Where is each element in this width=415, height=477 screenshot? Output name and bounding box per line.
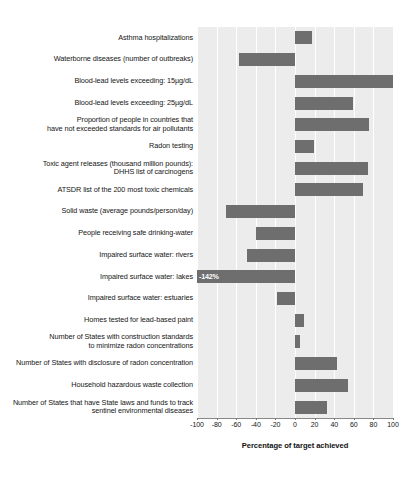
category-label: Impaired surface water: lakes: [0, 273, 193, 282]
bar: [295, 118, 369, 131]
x-tick: [334, 418, 335, 420]
bar: [295, 31, 312, 44]
category-label-line: Blood-lead levels exceeding: 25µg/dL: [0, 99, 193, 108]
x-axis-title: Percentage of target achieved: [197, 441, 393, 450]
category-label: Impaired surface water: estuaries: [0, 294, 193, 303]
category-label-line: People receiving safe drinking-water: [0, 229, 193, 238]
bar: [226, 205, 295, 218]
category-label: Solid waste (average pounds/person/day): [0, 207, 193, 216]
x-tick-label: 100: [380, 421, 406, 428]
category-label-line: Impaired surface water: rivers: [0, 251, 193, 260]
bar-row: [197, 136, 393, 158]
bar-row: [197, 223, 393, 245]
bar-row: [197, 353, 393, 375]
bar-row: [197, 70, 393, 92]
bar-row: [197, 114, 393, 136]
category-label: Number of States with disclosure of rado…: [0, 359, 193, 368]
bar: [295, 335, 300, 348]
x-tick: [275, 418, 276, 420]
category-label: Proportion of people in countries thatha…: [0, 116, 193, 133]
category-label: Number of States that have State laws an…: [0, 399, 193, 416]
bar: [239, 53, 295, 66]
category-label: ATSDR list of the 200 most toxic chemica…: [0, 186, 193, 195]
category-label-line: Homes tested for lead-based paint: [0, 316, 193, 325]
category-label: Impaired surface water: rivers: [0, 251, 193, 260]
category-label: People receiving safe drinking-water: [0, 229, 193, 238]
x-tick: [315, 418, 316, 420]
bar-row: [197, 288, 393, 310]
category-label-line: Asthma hospitalizations: [0, 34, 193, 43]
category-label-line: sentinel environmental diseases: [0, 407, 193, 416]
bar: [295, 140, 314, 153]
plot-area: -142%: [197, 27, 393, 418]
category-label-line: have not exceeded standards for air poll…: [0, 125, 193, 134]
bar: [247, 249, 295, 262]
bar-value-label: -142%: [199, 271, 219, 282]
bar: [295, 357, 337, 370]
category-labels: Asthma hospitalizationsWaterborne diseas…: [0, 27, 193, 418]
bar-row: [197, 92, 393, 114]
category-label: Waterborne diseases (number of outbreaks…: [0, 55, 193, 64]
bar: [295, 314, 304, 327]
bar: -142%: [197, 270, 295, 283]
x-tick: [197, 418, 198, 420]
category-label-line: Impaired surface water: lakes: [0, 273, 193, 282]
category-label-line: Household hazardous waste collection: [0, 381, 193, 390]
bar: [295, 162, 368, 175]
x-tick: [236, 418, 237, 420]
bar-row: [197, 179, 393, 201]
bar: [277, 292, 295, 305]
bar: [295, 379, 348, 392]
bar-chart: -142% Asthma hospitalizationsWaterborne …: [0, 0, 415, 477]
bar-row: [197, 27, 393, 49]
category-label-line: ATSDR list of the 200 most toxic chemica…: [0, 186, 193, 195]
category-label: Toxic agent releases (thousand million p…: [0, 160, 193, 177]
category-label-line: Solid waste (average pounds/person/day): [0, 207, 193, 216]
x-tick: [217, 418, 218, 420]
bar-row: [197, 396, 393, 418]
x-tick: [393, 418, 394, 420]
bar-row: [197, 331, 393, 353]
bar-row: [197, 309, 393, 331]
category-label-line: Impaired surface water: estuaries: [0, 294, 193, 303]
bar: [295, 183, 363, 196]
x-tick: [373, 418, 374, 420]
bar-row: [197, 375, 393, 397]
category-label-line: Radon testing: [0, 142, 193, 151]
bar-row: -142%: [197, 266, 393, 288]
bar-row: [197, 201, 393, 223]
x-tick: [354, 418, 355, 420]
bar-row: [197, 157, 393, 179]
category-label-line: Waterborne diseases (number of outbreaks…: [0, 55, 193, 64]
category-label: Household hazardous waste collection: [0, 381, 193, 390]
gridline-100: [393, 27, 394, 418]
category-label-line: Number of States with disclosure of rado…: [0, 359, 193, 368]
category-label-line: Blood-lead levels exceeding: 15µg/dL: [0, 77, 193, 86]
category-label-line: to minimize radon concentrations: [0, 342, 193, 351]
category-label: Asthma hospitalizations: [0, 34, 193, 43]
x-tick: [295, 418, 296, 420]
x-tick: [256, 418, 257, 420]
category-label: Blood-lead levels exceeding: 25µg/dL: [0, 99, 193, 108]
bar-row: [197, 49, 393, 71]
category-label-line: DHHS list of carcinogens: [0, 168, 193, 177]
bar: [295, 75, 393, 88]
bar: [295, 97, 353, 110]
category-label: Number of States with construction stand…: [0, 333, 193, 350]
category-label: Radon testing: [0, 142, 193, 151]
category-label: Blood-lead levels exceeding: 15µg/dL: [0, 77, 193, 86]
bar: [295, 401, 327, 414]
bar-row: [197, 244, 393, 266]
category-label: Homes tested for lead-based paint: [0, 316, 193, 325]
bar: [256, 227, 295, 240]
